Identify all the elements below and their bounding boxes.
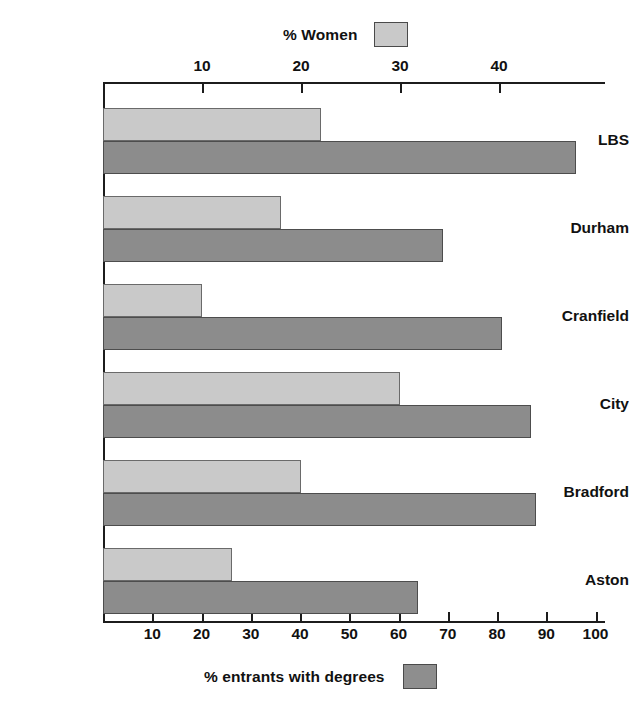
top-tick-20: [301, 84, 303, 93]
bottom-tick-70: [448, 612, 450, 621]
bar-degrees-bradford: [103, 493, 536, 526]
bar-women-aston: [103, 548, 232, 581]
bar-women-cranfield: [103, 284, 202, 317]
legend-top-label: % Women: [283, 26, 357, 44]
legend-bottom: % entrants with degrees: [204, 664, 437, 689]
top-tick-30: [400, 84, 402, 93]
bottom-axis-line: [103, 621, 605, 623]
bar-degrees-durham: [103, 229, 443, 262]
top-axis-line: [103, 82, 605, 84]
top-tick-10: [202, 84, 204, 93]
legend-top: % Women: [283, 22, 408, 47]
bottom-tick-100: [596, 612, 598, 621]
bar-degrees-cranfield: [103, 317, 502, 350]
bar-degrees-lbs: [103, 141, 576, 174]
bar-chart: % Women 10203040 102030405060708090100 L…: [0, 0, 629, 702]
bottom-tick-80: [497, 612, 499, 621]
category-label-aston: Aston: [537, 571, 629, 589]
legend-top-swatch: [374, 22, 408, 47]
legend-bottom-swatch: [403, 664, 437, 689]
bottom-tick-label-60: 60: [376, 625, 422, 643]
top-tick-label-10: 10: [179, 57, 225, 75]
bottom-tick-label-80: 80: [474, 625, 520, 643]
category-label-cranfield: Cranfield: [537, 307, 629, 325]
bottom-tick-label-40: 40: [277, 625, 323, 643]
category-label-bradford: Bradford: [537, 483, 629, 501]
top-tick-40: [499, 84, 501, 93]
category-label-city: City: [537, 395, 629, 413]
bar-women-city: [103, 372, 400, 405]
top-tick-label-20: 20: [278, 57, 324, 75]
bar-women-bradford: [103, 460, 301, 493]
bottom-tick-label-50: 50: [326, 625, 372, 643]
top-tick-label-30: 30: [377, 57, 423, 75]
bottom-tick-label-20: 20: [179, 625, 225, 643]
bottom-tick-90: [546, 612, 548, 621]
bottom-tick-label-100: 100: [573, 625, 619, 643]
top-tick-label-40: 40: [476, 57, 522, 75]
bottom-tick-label-30: 30: [228, 625, 274, 643]
bottom-tick-label-70: 70: [425, 625, 471, 643]
bar-degrees-aston: [103, 581, 418, 614]
category-label-durham: Durham: [537, 219, 629, 237]
bottom-tick-label-10: 10: [129, 625, 175, 643]
bar-women-lbs: [103, 108, 321, 141]
bottom-tick-label-90: 90: [523, 625, 569, 643]
bar-degrees-city: [103, 405, 531, 438]
legend-bottom-label: % entrants with degrees: [204, 668, 385, 686]
bar-women-durham: [103, 196, 281, 229]
